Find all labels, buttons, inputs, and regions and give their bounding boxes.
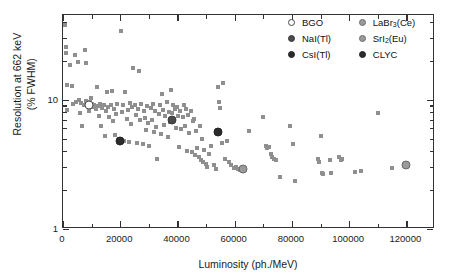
data-point: [138, 118, 142, 122]
data-point: [166, 135, 170, 139]
data-point: [162, 123, 166, 127]
data-point: [114, 112, 118, 116]
data-point: [319, 134, 323, 138]
x-axis-tick-label: 120000: [390, 233, 422, 244]
highlight-marker-clyc: [116, 136, 125, 145]
data-point: [141, 142, 145, 146]
legend-item-label: CsI(Tl): [302, 49, 331, 60]
data-point: [64, 51, 68, 55]
y-axis-tick-minor: [430, 112, 434, 113]
data-point: [216, 85, 220, 89]
legend-item-sri2-eu[interactable]: SrI2(Eu): [359, 33, 436, 44]
legend-item-bgo[interactable]: BGO: [288, 17, 352, 28]
x-axis-tick-major: [177, 221, 178, 227]
data-point: [205, 165, 209, 169]
x-axis-tick-label: 100000: [332, 233, 364, 244]
data-point: [155, 157, 159, 161]
legend-item-csi-tl[interactable]: CsI(Tl): [288, 49, 352, 60]
data-point: [194, 129, 198, 133]
data-point: [104, 109, 108, 113]
y-axis-tick-minor: [63, 112, 67, 113]
x-axis-tick-minor: [149, 15, 150, 19]
highlight-marker-sri2-eu: [402, 161, 411, 170]
y-axis-tick-label: 1: [36, 223, 58, 234]
x-axis-tick-major: [235, 15, 236, 21]
y-axis-tick-major: [63, 229, 69, 230]
data-point: [293, 179, 297, 183]
data-point: [321, 172, 325, 176]
x-axis-tick-major: [120, 15, 121, 21]
data-point: [220, 141, 224, 145]
legend-item-clyc[interactable]: CLYC: [359, 49, 436, 60]
y-axis-tick-minor: [430, 61, 434, 62]
data-point: [131, 66, 135, 70]
data-point: [115, 102, 119, 106]
legend-item-nai-tl[interactable]: NaI(Tl): [288, 33, 352, 44]
data-point: [176, 114, 180, 118]
data-point: [134, 113, 138, 117]
highlight-marker-labr3-ce: [239, 165, 248, 174]
x-axis-tick-minor: [378, 224, 379, 228]
y-axis-tick-minor: [63, 190, 67, 191]
data-point: [175, 105, 179, 109]
y-axis-tick-minor: [430, 190, 434, 191]
data-point: [174, 126, 178, 130]
y-axis-tick-major: [63, 100, 69, 101]
x-axis-tick-minor: [92, 15, 93, 19]
x-axis-tick-major: [177, 15, 178, 21]
x-axis-tick-minor: [263, 224, 264, 228]
x-axis-tick-major: [235, 221, 236, 227]
highlight-marker-nai-tl: [167, 115, 176, 124]
legend-item-label: LaBr3(Ce): [373, 17, 415, 28]
x-axis-tick-minor: [206, 15, 207, 19]
data-point: [221, 81, 225, 85]
data-point: [207, 152, 211, 156]
data-point: [129, 122, 133, 126]
legend-item-label: SrI2(Eu): [373, 33, 407, 44]
data-point: [95, 85, 99, 89]
data-point: [151, 102, 155, 106]
y-axis-tick-minor: [430, 128, 434, 129]
data-point: [178, 109, 182, 113]
y-axis-tick-minor: [63, 167, 67, 168]
data-point: [165, 100, 169, 104]
data-point: [64, 45, 68, 49]
legend-marker-icon: [288, 51, 295, 58]
legend-column-2: LaBr3(Ce)SrI2(Eu)CLYC: [359, 17, 436, 60]
data-point: [143, 116, 147, 120]
data-point: [120, 110, 124, 114]
x-axis-tick-label: 0: [59, 233, 64, 244]
data-point: [184, 107, 188, 111]
data-point: [181, 115, 185, 119]
y-axis-tick-minor: [63, 61, 67, 62]
legend-marker-icon: [359, 35, 366, 42]
data-point: [147, 144, 151, 148]
highlight-marker-bgo: [84, 101, 93, 110]
legend-item-labr3-ce[interactable]: LaBr3(Ce): [359, 17, 436, 28]
x-axis-title: Luminosity (ph./MeV): [62, 258, 434, 270]
x-axis-tick-minor: [206, 224, 207, 228]
data-point: [183, 124, 187, 128]
data-point: [340, 157, 344, 161]
data-point: [169, 88, 173, 92]
y-axis-tick-minor: [430, 167, 434, 168]
data-point: [187, 131, 191, 135]
y-axis-tick-minor: [430, 151, 434, 152]
x-axis-tick-minor: [92, 224, 93, 228]
y-axis-tick-minor: [430, 120, 434, 121]
x-axis-tick-major: [120, 221, 121, 227]
data-point: [218, 106, 222, 110]
data-point: [209, 144, 213, 148]
data-point: [111, 119, 115, 123]
data-point: [139, 102, 143, 106]
data-point: [80, 124, 84, 128]
data-point: [76, 60, 80, 64]
data-point: [125, 117, 129, 121]
legend-marker-icon: [359, 51, 366, 58]
x-axis-tick-label: 80000: [278, 233, 304, 244]
data-point: [157, 112, 161, 116]
data-point: [317, 160, 321, 164]
y-axis-tick-major: [427, 229, 433, 230]
data-point: [68, 63, 72, 67]
data-point: [73, 53, 77, 57]
